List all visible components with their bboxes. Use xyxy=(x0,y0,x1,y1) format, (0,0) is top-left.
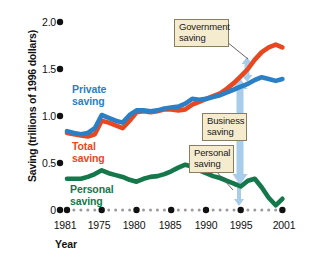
inline-label-personal-line2: saving xyxy=(70,196,114,208)
callout-personal-line1: Personal xyxy=(194,148,229,159)
callout-government-saving: Government saving xyxy=(174,19,229,47)
inline-label-total-line2: saving xyxy=(72,153,105,165)
government-callout-leader xyxy=(227,42,248,59)
callout-business-line1: Business xyxy=(207,116,242,127)
callout-personal-saving: Personal saving xyxy=(189,145,234,173)
callout-business-saving: Business saving xyxy=(202,113,247,141)
callout-government-line1: Government xyxy=(179,22,224,33)
inline-label-private-saving: Private saving xyxy=(72,84,106,107)
x-major-tick-dots xyxy=(64,207,286,213)
callout-personal-line2: saving xyxy=(194,159,229,170)
plot-area xyxy=(0,0,315,261)
savings-line-chart: Saving (trillions of 1996 dollars) 2.0 1… xyxy=(0,0,315,261)
inline-label-total-line1: Total xyxy=(72,141,105,153)
inline-label-private-line1: Private xyxy=(72,84,106,96)
callout-business-line2: saving xyxy=(207,127,242,138)
callout-government-line2: saving xyxy=(179,33,224,44)
inline-label-personal-saving: Personal saving xyxy=(70,184,114,207)
inline-label-personal-line1: Personal xyxy=(70,184,114,196)
inline-label-total-saving: Total saving xyxy=(72,141,105,164)
inline-label-private-line2: saving xyxy=(72,96,106,108)
y-tick-dots xyxy=(57,19,63,213)
